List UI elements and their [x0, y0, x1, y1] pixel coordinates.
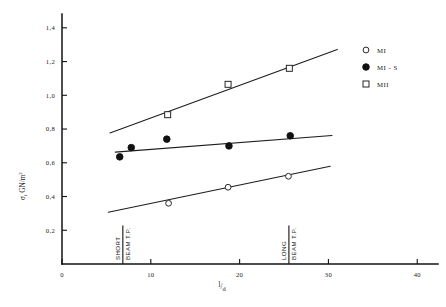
scatter-plot: 010203040 0,20,40,60,81,01,21,4 SHORTBEA…	[0, 0, 446, 307]
data-point-mis	[163, 136, 170, 143]
y-tick-label: 0,2	[46, 227, 55, 234]
data-point-mis	[226, 143, 233, 150]
annotation-label-right: BEAM T.P.	[290, 227, 297, 260]
data-point-mii	[225, 81, 231, 87]
y-tick-label: 0,8	[46, 125, 56, 132]
x-tick-label: 0	[60, 271, 64, 278]
x-tick-label: 20	[236, 271, 244, 278]
data-point-mi	[225, 184, 231, 190]
y-tick-label: 0,6	[46, 159, 56, 166]
data-point-mii	[286, 65, 292, 71]
legend-marker-mi	[363, 47, 369, 53]
data-point-mi	[166, 200, 172, 206]
legend-label: MII	[377, 81, 389, 88]
chart-figure: 010203040 0,20,40,60,81,01,21,4 SHORTBEA…	[0, 0, 446, 307]
y-tick-label: 1,0	[46, 92, 56, 99]
y-tick-label: 0,4	[46, 193, 56, 200]
data-point-mis	[287, 132, 294, 139]
x-tick-label: 10	[147, 271, 155, 278]
data-point-mis	[116, 154, 123, 161]
legend-marker-mii	[363, 81, 369, 87]
x-tick-label: 40	[414, 271, 422, 278]
annotation-label-left: LONG	[280, 241, 287, 260]
legend-label: MI - S	[377, 64, 398, 71]
legend-marker-mis	[363, 64, 370, 71]
data-point-mi	[286, 173, 292, 179]
annotation-label-right: BEAM T.P.	[124, 227, 131, 260]
legend-label: MI	[377, 47, 387, 54]
x-tick-label: 30	[325, 271, 333, 278]
y-tick-label: 1,4	[46, 24, 56, 31]
y-axis-units: GN/m	[19, 174, 27, 192]
annotation-label-left: SHORT	[114, 237, 121, 260]
data-point-mii	[165, 112, 171, 118]
y-tick-label: 1,2	[46, 58, 55, 65]
data-point-mis	[128, 144, 135, 151]
